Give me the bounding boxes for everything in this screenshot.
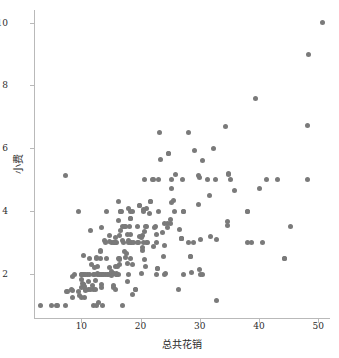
data-point <box>142 177 147 182</box>
scatter-plot-figure: 246810 1020304050 总共花销 小费 <box>0 0 339 358</box>
x-tick-mark <box>318 319 319 323</box>
data-point <box>154 272 159 277</box>
data-point <box>214 237 219 242</box>
data-point <box>208 234 213 239</box>
data-point <box>200 272 205 277</box>
data-point <box>173 172 178 177</box>
data-point <box>139 271 144 276</box>
data-point <box>282 256 287 261</box>
data-point <box>228 177 233 182</box>
data-point <box>116 256 121 261</box>
data-point <box>214 298 219 303</box>
data-point <box>181 209 186 214</box>
data-point <box>93 287 98 292</box>
data-point <box>180 177 185 182</box>
data-point <box>306 52 311 57</box>
y-tick-label: 10 <box>0 18 8 28</box>
plot-area <box>34 10 330 318</box>
data-point <box>207 193 212 198</box>
data-point <box>70 274 75 279</box>
data-point <box>126 272 131 277</box>
data-point <box>112 240 117 245</box>
data-point <box>147 211 152 216</box>
data-point <box>105 272 110 277</box>
x-tick-mark <box>259 319 260 323</box>
data-point <box>226 172 231 177</box>
data-point <box>143 264 148 269</box>
data-point <box>142 257 147 262</box>
data-point <box>155 266 160 271</box>
data-point <box>275 177 280 182</box>
data-point <box>172 209 177 214</box>
data-point <box>98 249 103 254</box>
data-point <box>179 236 184 241</box>
data-point <box>126 238 131 243</box>
data-point <box>158 157 163 162</box>
data-point <box>168 221 173 226</box>
y-axis-label: 小费 <box>10 147 25 181</box>
data-point <box>205 177 210 182</box>
data-point <box>70 295 75 300</box>
data-point <box>79 272 84 277</box>
x-tick-mark <box>200 319 201 323</box>
data-point <box>103 240 108 245</box>
data-point <box>87 256 92 261</box>
data-point <box>49 303 54 308</box>
data-point <box>253 96 258 101</box>
data-point <box>305 123 310 128</box>
data-point <box>137 203 142 208</box>
data-point <box>211 146 216 151</box>
x-axis-label: 总共花销 <box>34 336 330 351</box>
data-point <box>156 209 161 214</box>
data-point <box>116 218 121 223</box>
data-point <box>148 199 153 204</box>
data-point <box>169 200 174 205</box>
data-point <box>76 209 81 214</box>
data-point <box>169 186 174 191</box>
x-tick-mark <box>81 319 82 323</box>
data-point <box>213 177 218 182</box>
data-point <box>128 232 133 237</box>
data-point <box>92 265 97 270</box>
data-point <box>166 151 171 156</box>
data-point <box>162 243 167 248</box>
data-point <box>128 216 133 221</box>
data-point <box>152 225 157 230</box>
data-point <box>130 209 135 214</box>
data-point <box>192 148 197 153</box>
y-tick-label: 8 <box>0 80 8 90</box>
data-point <box>232 188 237 193</box>
data-point <box>113 287 118 292</box>
data-point <box>320 20 325 25</box>
data-point <box>91 303 96 308</box>
data-point <box>141 209 146 214</box>
x-tick-mark <box>141 319 142 323</box>
data-point <box>200 158 205 163</box>
data-point <box>93 278 98 283</box>
data-point <box>245 209 250 214</box>
data-point <box>99 285 104 290</box>
data-point <box>176 287 181 292</box>
data-point <box>169 177 174 182</box>
data-point <box>186 130 191 135</box>
data-point <box>223 124 228 129</box>
data-point <box>63 173 68 178</box>
data-point <box>264 177 269 182</box>
data-point <box>104 256 109 261</box>
data-point <box>55 303 60 308</box>
data-point <box>97 272 102 277</box>
data-point <box>161 254 166 259</box>
data-point <box>288 224 293 229</box>
data-point <box>181 272 186 277</box>
data-point <box>127 224 132 229</box>
y-tick-label: 6 <box>0 143 8 153</box>
data-point <box>249 240 254 245</box>
data-point <box>257 186 262 191</box>
data-point <box>125 279 130 284</box>
data-point <box>83 288 88 293</box>
data-point <box>38 303 43 308</box>
data-point <box>133 287 138 292</box>
y-tick-label: 2 <box>0 269 8 279</box>
data-point <box>130 292 135 297</box>
data-point <box>131 240 136 245</box>
